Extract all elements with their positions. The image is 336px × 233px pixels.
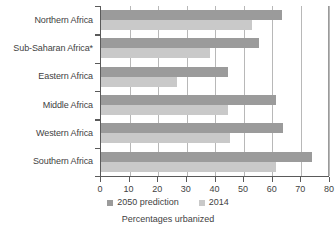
x-axis-tick <box>129 177 130 182</box>
category-label: Middle Africa <box>0 91 98 119</box>
bar[interactable] <box>101 10 282 20</box>
bar-group <box>101 63 329 91</box>
bar-groups <box>101 6 329 176</box>
legend-swatch-icon <box>199 200 205 206</box>
bar[interactable] <box>101 67 228 77</box>
bar-group <box>101 119 329 147</box>
category-label: Northern Africa <box>0 6 98 34</box>
bar[interactable] <box>101 152 312 162</box>
bar-row <box>101 77 329 87</box>
bar-row <box>101 10 329 20</box>
legend-swatch-icon <box>107 200 113 206</box>
bar-row <box>101 133 329 143</box>
x-axis-tick <box>243 177 244 182</box>
x-axis-tick <box>157 177 158 182</box>
bar[interactable] <box>101 95 276 105</box>
bar-chart: Northern Africa Sub-Saharan Africa* East… <box>0 0 336 233</box>
bar[interactable] <box>101 123 283 133</box>
x-axis-tick-label: 80 <box>324 183 334 195</box>
bar-group <box>101 91 329 119</box>
x-axis-tick-label: 0 <box>97 183 102 195</box>
bar-row <box>101 48 329 58</box>
x-axis-tick-label: 30 <box>181 183 191 195</box>
x-axis-tick-label: 20 <box>152 183 162 195</box>
x-axis-tick-label: 10 <box>124 183 134 195</box>
x-axis-tick-label: 50 <box>238 183 248 195</box>
bar[interactable] <box>101 20 252 30</box>
x-axis-tick <box>300 177 301 182</box>
bar[interactable] <box>101 38 259 48</box>
bar[interactable] <box>101 133 230 143</box>
x-axis-tick <box>272 177 273 182</box>
legend-label: 2014 <box>209 198 229 207</box>
category-label: Southern Africa <box>0 148 98 176</box>
bar-group <box>101 34 329 62</box>
x-axis-tick <box>186 177 187 182</box>
category-label: Sub-Saharan Africa* <box>0 34 98 62</box>
bar-group <box>101 148 329 176</box>
category-label: Western Africa <box>0 119 98 147</box>
legend: 2050 prediction 2014 <box>0 198 336 207</box>
plot-area <box>100 6 329 176</box>
x-axis-tick-labels: 01020304050607080 <box>100 183 329 195</box>
x-axis-tick <box>329 177 330 182</box>
x-axis-title: Percentages urbanized <box>0 214 336 224</box>
legend-item-prediction[interactable]: 2050 prediction <box>107 198 179 207</box>
category-label: Eastern Africa <box>0 63 98 91</box>
legend-item-current[interactable]: 2014 <box>199 198 229 207</box>
x-axis-tick-label: 40 <box>209 183 219 195</box>
x-axis-tick-label: 60 <box>267 183 277 195</box>
bar-row <box>101 105 329 115</box>
legend-label: 2050 prediction <box>117 198 179 207</box>
x-axis-ticks <box>100 177 329 182</box>
bar[interactable] <box>101 105 228 115</box>
bar-row <box>101 152 329 162</box>
x-axis-tick <box>215 177 216 182</box>
bar[interactable] <box>101 162 276 172</box>
bar-group <box>101 6 329 34</box>
x-axis-tick <box>100 177 101 182</box>
category-axis-labels: Northern Africa Sub-Saharan Africa* East… <box>0 6 98 176</box>
bar[interactable] <box>101 77 177 87</box>
bar-row <box>101 38 329 48</box>
bar-row <box>101 95 329 105</box>
bar[interactable] <box>101 48 210 58</box>
bar-row <box>101 67 329 77</box>
x-axis-tick-label: 70 <box>295 183 305 195</box>
bar-row <box>101 123 329 133</box>
gridline <box>329 6 330 176</box>
bar-row <box>101 162 329 172</box>
bar-row <box>101 20 329 30</box>
